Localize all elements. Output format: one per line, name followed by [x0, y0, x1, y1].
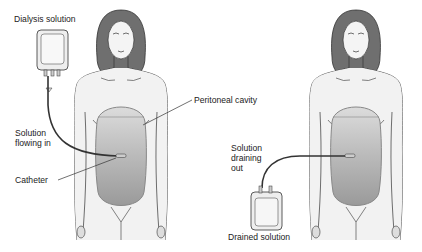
catheter-icon: [345, 154, 355, 158]
patient-figure-draining: [310, 10, 403, 240]
patient-figure-filling: [75, 10, 168, 240]
label-drained-solution: Drained solution: [228, 232, 290, 242]
drained-solution-bag-icon: [251, 186, 282, 230]
label-catheter: Catheter: [15, 175, 48, 185]
label-peritoneal-cavity: Peritoneal cavity: [194, 95, 257, 105]
catheter-icon: [116, 154, 126, 158]
label-dialysis-solution: Dialysis solution: [14, 14, 76, 24]
label-solution-draining-out: Solution draining out: [231, 143, 262, 173]
dialysis-solution-bag-icon: [37, 30, 68, 92]
peritoneal-dialysis-diagram: Dialysis solution Peritoneal cavity Solu…: [0, 0, 422, 252]
label-solution-flowing-in: Solution flowing in: [15, 128, 51, 148]
